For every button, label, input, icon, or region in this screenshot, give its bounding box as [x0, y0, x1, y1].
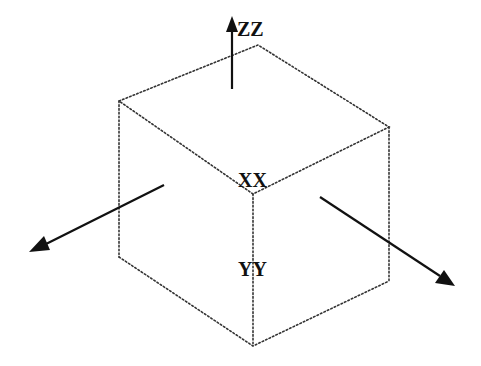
- label-x: XX: [238, 169, 267, 191]
- right-axis-line: [320, 197, 440, 276]
- label-y: YY: [238, 258, 267, 280]
- left-axis-line: [44, 185, 164, 245]
- right-axis-arrowhead-icon: [435, 270, 455, 286]
- left-axis-arrowhead-icon: [29, 236, 50, 252]
- cube: [119, 45, 389, 346]
- cube-axes-diagram: ZZ XX YY: [0, 0, 481, 366]
- x-axis-left: [29, 185, 164, 252]
- x-axis-right: [320, 197, 455, 286]
- label-z: ZZ: [237, 18, 264, 40]
